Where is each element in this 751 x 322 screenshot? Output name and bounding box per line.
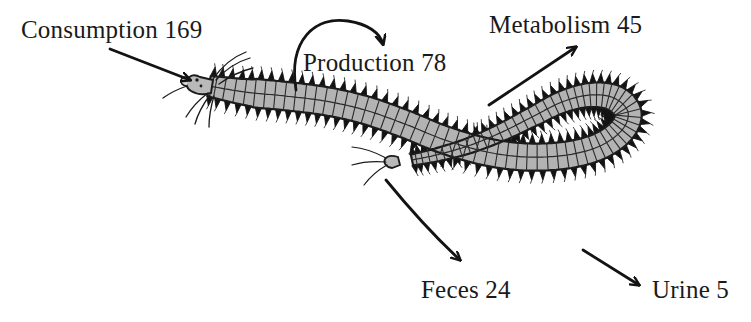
worm-seta (575, 177, 576, 181)
worm-seta (593, 70, 594, 74)
worm-seta (549, 130, 551, 133)
worm-seta (416, 173, 418, 176)
worm-seta (566, 129, 568, 132)
worm-seta (271, 67, 272, 71)
worm-parapodium (529, 171, 535, 181)
worm-seta (282, 68, 283, 72)
worm-seta (534, 91, 535, 95)
worm-parapodium (591, 107, 597, 116)
worm-seta (530, 180, 531, 183)
worm-seta (370, 137, 372, 140)
consumption-arrow (110, 49, 190, 80)
worm-parapodium (540, 171, 546, 181)
worm-seta (256, 117, 258, 120)
label-feces: Feces 24 (421, 277, 511, 302)
worm-seta (566, 122, 569, 125)
worm-seta (519, 180, 520, 183)
worm-tail (352, 147, 400, 185)
worm-seta (622, 160, 623, 164)
worm-seta (422, 172, 424, 175)
worm-seta (411, 143, 412, 147)
worm-seta (215, 63, 216, 67)
worm-seta (511, 103, 512, 107)
worm-seta (305, 122, 307, 125)
label-consumption: Consumption 169 (21, 17, 203, 42)
worm-seta (296, 121, 298, 124)
tail-cirri (352, 147, 387, 185)
worm-seta (594, 116, 595, 119)
label-production: Production 78 (303, 50, 447, 75)
worm-parapodium (529, 134, 535, 144)
worm-seta (601, 70, 602, 73)
worm-seta (642, 90, 645, 91)
worm-seta (276, 119, 278, 122)
worm-seta (324, 125, 326, 128)
worm-seta (497, 178, 499, 181)
worm-seta (553, 180, 554, 184)
worm-seta (589, 116, 591, 119)
worm-seta (558, 130, 560, 133)
worm-seta (399, 148, 401, 151)
label-urine: Urine 5 (652, 277, 729, 302)
worm-seta (343, 129, 345, 132)
worm-seta (630, 154, 631, 157)
worm-seta (224, 111, 226, 114)
worm-seta (553, 128, 556, 130)
worm-seta (504, 108, 505, 112)
worm-seta (619, 73, 621, 76)
worm-seta (572, 120, 574, 123)
worm-seta (602, 117, 603, 121)
worm-seta (635, 83, 638, 85)
worm-seta (214, 108, 216, 111)
worm-seta (594, 119, 597, 121)
worm-parapodium (539, 134, 545, 144)
worm-seta (352, 131, 354, 134)
feces-arrow (386, 180, 460, 260)
worm-seta (651, 113, 655, 114)
worm-seta (436, 170, 438, 173)
worm-seta (545, 132, 548, 135)
worm-parapodium (597, 73, 603, 82)
worm-seta (246, 115, 248, 118)
worm-seta (560, 124, 563, 127)
worm-seta (584, 117, 586, 120)
worm-seta (443, 169, 445, 172)
worm-seta (642, 141, 644, 144)
worm-seta (292, 70, 293, 74)
worm-seta (266, 118, 268, 121)
worm-seta (361, 134, 363, 137)
worm-seta (580, 125, 582, 128)
worm-seta (486, 176, 488, 179)
worm-seta (344, 77, 345, 81)
worm-seta (586, 124, 588, 127)
worm-seta (542, 86, 543, 90)
worm-seta (614, 165, 615, 169)
worm-seta (243, 66, 244, 70)
worm-seta (564, 179, 565, 183)
worm-seta (333, 127, 335, 130)
worm-seta (650, 124, 653, 126)
worm-seta (579, 118, 581, 121)
worm-seta (315, 124, 317, 127)
worm-seta (610, 71, 612, 74)
worm-seta (628, 77, 631, 79)
worm-seta (207, 106, 209, 109)
worm-seta (235, 113, 237, 116)
urine-arrow (583, 250, 639, 285)
worm-seta (428, 171, 430, 174)
energy-budget-figure: Consumption 169 Production 78 Metabolism… (0, 0, 751, 322)
worm-seta (527, 95, 528, 99)
worm-seta (590, 122, 593, 124)
worm-seta (647, 133, 650, 136)
worm-seta (573, 127, 575, 130)
worm-seta (508, 179, 510, 182)
worm-seta (389, 144, 391, 147)
worm-seta (261, 66, 262, 70)
worm-seta (460, 165, 462, 168)
worm-seta (637, 148, 639, 151)
worm-seta (598, 117, 599, 120)
worm-seta (286, 120, 288, 123)
worm-seta (542, 180, 543, 183)
worm-seta (463, 171, 465, 174)
worm-seta (584, 71, 585, 75)
